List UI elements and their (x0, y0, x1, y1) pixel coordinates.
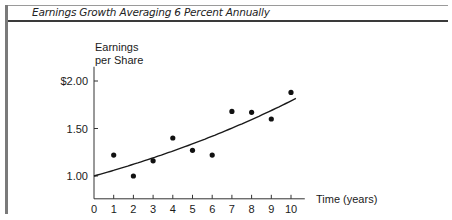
x-tick-label: 0 (91, 203, 97, 215)
data-point (131, 173, 136, 178)
data-point (170, 135, 175, 140)
x-tick-label: 1 (111, 203, 117, 215)
x-tick-label: 4 (170, 203, 176, 215)
axis-ticks: 0123456789101.001.50$2.00 (60, 75, 297, 215)
y-axis-label: Earningsper Share (95, 41, 143, 66)
data-point (190, 148, 195, 153)
x-tick-label: 5 (189, 203, 195, 215)
data-point (229, 109, 234, 114)
data-point (269, 116, 274, 121)
y-axis-label-line: per Share (95, 54, 143, 66)
x-tick-label: 2 (130, 203, 136, 215)
data-point (288, 90, 293, 95)
data-point (111, 153, 116, 158)
y-tick-label: $2.00 (60, 75, 88, 87)
trend-line (94, 98, 296, 176)
x-tick-label: 7 (229, 203, 235, 215)
y-tick-label: 1.50 (67, 123, 88, 135)
x-tick-label: 9 (268, 203, 274, 215)
y-axis-label-line: Earnings (95, 41, 139, 53)
chart-plot: Earningsper Share 0123456789101.001.50$2… (0, 0, 452, 220)
data-point (210, 153, 215, 158)
x-tick-label: 8 (249, 203, 255, 215)
axes (94, 67, 305, 199)
x-tick-label: 10 (285, 203, 297, 215)
x-tick-label: 3 (150, 203, 156, 215)
data-point (249, 110, 254, 115)
y-tick-label: 1.00 (67, 170, 88, 182)
x-axis-label: Time (years) (316, 193, 377, 205)
x-tick-label: 6 (209, 203, 215, 215)
data-points (111, 90, 294, 179)
data-point (151, 158, 156, 163)
